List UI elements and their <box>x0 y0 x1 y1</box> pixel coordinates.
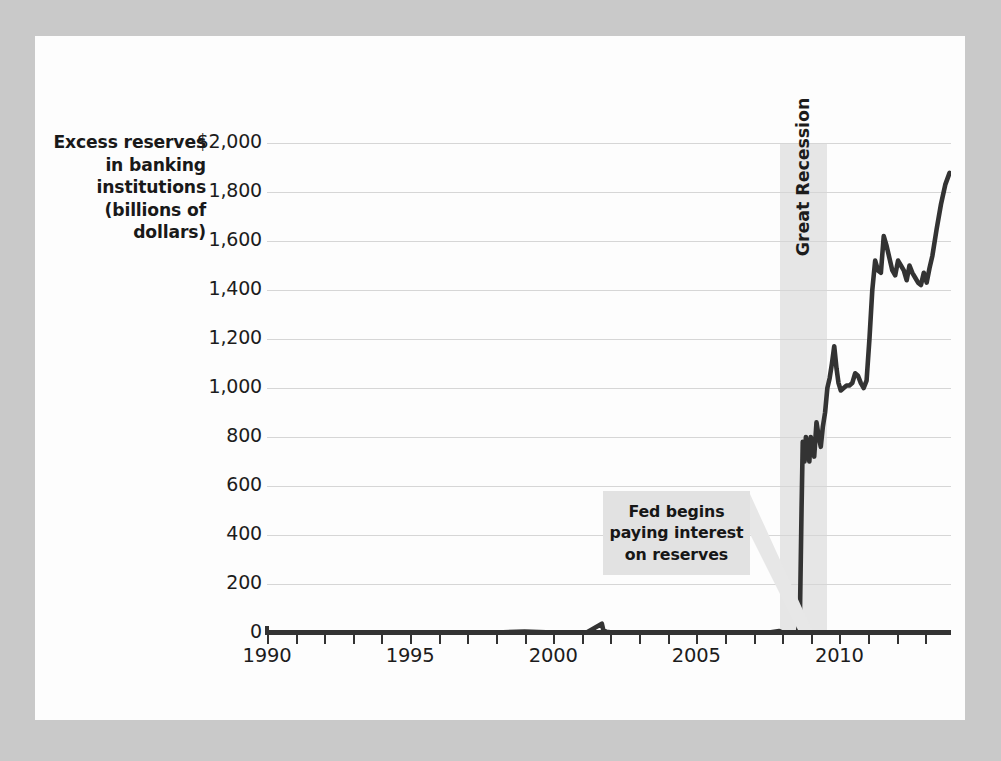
x-tick-minor <box>754 635 756 644</box>
x-tick-minor <box>353 635 355 644</box>
x-tick-minor <box>553 635 555 644</box>
x-tick-label: 2010 <box>794 644 884 667</box>
y-tick-label: 1,600 <box>178 228 262 250</box>
y-tick-label: $2,000 <box>178 130 262 152</box>
x-tick-label: 2005 <box>651 644 741 667</box>
y-tick-label: 1,800 <box>178 179 262 201</box>
x-tick-minor <box>296 635 298 644</box>
excess-reserves-chart: Excess reserves in banking institutions … <box>0 0 1001 761</box>
x-tick-minor <box>639 635 641 644</box>
y-tick-label: 600 <box>178 473 262 495</box>
y-axis-title-line-2: in banking <box>30 154 206 177</box>
x-tick-minor <box>811 635 813 644</box>
x-tick-minor <box>725 635 727 644</box>
fed-pays-interest-callout-text: Fed begins paying interest on reserves <box>609 501 743 566</box>
x-tick-minor <box>267 635 269 644</box>
x-tick-minor <box>897 635 899 644</box>
figure-root: Excess reserves in banking institutions … <box>0 0 1001 761</box>
x-tick-minor <box>782 635 784 644</box>
y-tick-label: 1,000 <box>178 375 262 397</box>
x-tick-minor <box>868 635 870 644</box>
y-axis-origin-tick <box>265 626 269 635</box>
y-tick-label: 400 <box>178 522 262 544</box>
x-tick-minor <box>525 635 527 644</box>
x-tick-label: 1990 <box>222 644 312 667</box>
x-tick-minor <box>668 635 670 644</box>
x-tick-label: 2000 <box>508 644 598 667</box>
x-tick-minor <box>610 635 612 644</box>
y-tick-label: 0 <box>178 620 262 642</box>
x-tick-minor <box>324 635 326 644</box>
y-tick-label: 800 <box>178 424 262 446</box>
fed-pays-interest-callout: Fed begins paying interest on reserves <box>603 491 750 575</box>
x-tick-minor <box>439 635 441 644</box>
x-tick-minor <box>496 635 498 644</box>
x-tick-minor <box>696 635 698 644</box>
y-tick-label: 200 <box>178 571 262 593</box>
x-tick-minor <box>582 635 584 644</box>
y-axis-title-line-4: (billions of <box>30 199 206 222</box>
x-axis-line <box>267 630 951 635</box>
y-tick-label: 1,200 <box>178 326 262 348</box>
x-tick-minor <box>381 635 383 644</box>
x-tick-minor <box>839 635 841 644</box>
x-tick-minor <box>467 635 469 644</box>
y-tick-label: 1,400 <box>178 277 262 299</box>
x-tick-minor <box>925 635 927 644</box>
x-tick-label: 1995 <box>365 644 455 667</box>
x-tick-minor <box>410 635 412 644</box>
